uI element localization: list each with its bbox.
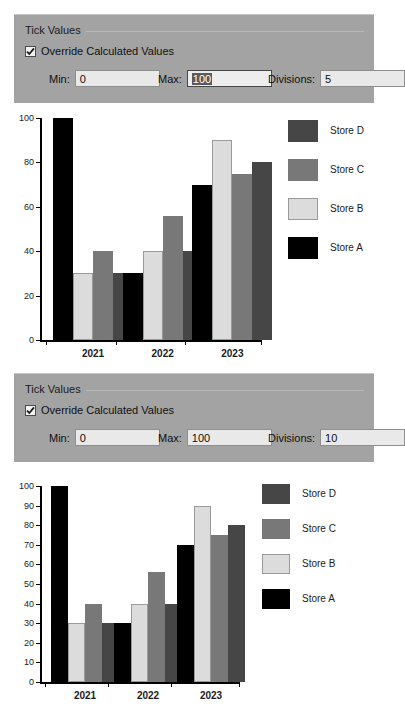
bar: [212, 140, 232, 340]
min-field-row: Min: 0: [49, 69, 160, 88]
y-tick-label: 50: [2, 580, 34, 589]
legend-label: Store D: [302, 489, 336, 499]
max-input[interactable]: 100: [187, 429, 272, 446]
max-field-label: Max:: [158, 73, 182, 85]
legend-swatch: [262, 589, 290, 609]
bar: [177, 545, 194, 682]
max-field-row: Max: 100: [158, 69, 272, 88]
y-tick-mark: [36, 662, 40, 663]
bar: [73, 273, 93, 340]
legend-label: Store B: [302, 559, 335, 569]
x-tick-mark: [45, 682, 46, 687]
override-calculated-values-row[interactable]: Override Calculated Values: [25, 45, 174, 57]
x-tick-mark: [116, 340, 117, 345]
y-tick-mark: [36, 545, 40, 546]
x-axis: [40, 682, 240, 684]
bar: [51, 486, 68, 682]
max-field-label: Max:: [158, 432, 182, 444]
y-tick-label: 80: [2, 158, 34, 167]
legend-swatch: [262, 484, 290, 504]
bar: [123, 273, 143, 340]
override-calculated-values-label: Override Calculated Values: [41, 45, 174, 57]
bar: [192, 185, 212, 340]
x-tick-label: 2022: [133, 349, 193, 359]
legend-label: Store A: [330, 243, 363, 253]
override-calculated-values-row[interactable]: Override Calculated Values: [25, 404, 174, 416]
y-tick-mark: [36, 584, 40, 585]
min-input-value: 0: [80, 73, 86, 85]
divisions-input-value: 5: [325, 73, 331, 85]
y-tick-mark: [36, 207, 40, 208]
divisions-input[interactable]: 5: [320, 70, 405, 87]
legend-label: Store C: [302, 524, 336, 534]
y-tick-mark: [36, 564, 40, 565]
x-tick-mark: [108, 682, 109, 687]
y-tick-label: 80: [2, 521, 34, 530]
y-tick-label: 20: [2, 639, 34, 648]
x-tick-mark: [239, 682, 240, 687]
legend-label: Store C: [330, 165, 364, 175]
divisions-input-value: 10: [325, 432, 337, 444]
bar-chart-1: 020406080100202120222023Store DStore CSt…: [0, 110, 388, 360]
bar: [163, 216, 183, 340]
y-tick-label: 20: [2, 292, 34, 301]
y-tick-label: 30: [2, 619, 34, 628]
x-tick-label: 2021: [55, 691, 115, 701]
y-tick-mark: [36, 296, 40, 297]
bar: [232, 174, 252, 341]
y-tick-mark: [36, 340, 40, 341]
y-tick-label: 60: [2, 203, 34, 212]
bar: [211, 535, 228, 682]
divisions-field-label: Divisions:: [268, 73, 315, 85]
y-axis: [40, 486, 42, 682]
y-tick-mark: [36, 118, 40, 119]
legend-swatch: [262, 519, 290, 539]
y-tick-label: 40: [2, 247, 34, 256]
y-tick-label: 100: [2, 114, 34, 123]
min-input[interactable]: 0: [75, 70, 160, 87]
panel-title: Tick Values: [25, 383, 81, 395]
bar-chart-2: 0102030405060708090100202120222023Store …: [0, 478, 388, 703]
bar: [68, 623, 85, 682]
min-field-label: Min:: [49, 432, 70, 444]
override-calculated-values-checkbox[interactable]: [25, 405, 36, 416]
bar: [143, 251, 163, 340]
y-tick-label: 70: [2, 541, 34, 550]
x-tick-mark: [185, 340, 186, 345]
x-tick-mark: [261, 340, 262, 345]
y-tick-label: 10: [2, 658, 34, 667]
legend-swatch: [288, 198, 318, 220]
x-tick-label: 2022: [118, 691, 178, 701]
y-tick-label: 90: [2, 502, 34, 511]
y-tick-label: 100: [2, 482, 34, 491]
min-field-label: Min:: [49, 73, 70, 85]
override-calculated-values-checkbox[interactable]: [25, 46, 36, 57]
bar: [148, 572, 165, 682]
legend-swatch: [288, 159, 318, 181]
x-tick-mark: [46, 340, 47, 345]
y-tick-label: 0: [2, 336, 34, 345]
y-tick-mark: [36, 251, 40, 252]
divisions-input[interactable]: 10: [320, 429, 405, 446]
min-input[interactable]: 0: [75, 429, 160, 446]
legend-label: Store B: [330, 204, 363, 214]
y-tick-mark: [36, 643, 40, 644]
bar: [53, 118, 73, 340]
bar: [131, 604, 148, 682]
max-field-row: Max: 100: [158, 428, 272, 447]
y-tick-label: 0: [2, 678, 34, 687]
legend-swatch: [288, 237, 318, 259]
bar: [93, 251, 113, 340]
bar: [194, 506, 211, 682]
y-tick-mark: [36, 486, 40, 487]
min-field-row: Min: 0: [49, 428, 160, 447]
divisions-field-row: Divisions: 5: [268, 69, 405, 88]
max-input[interactable]: 100: [187, 70, 272, 87]
y-tick-mark: [36, 623, 40, 624]
x-tick-label: 2023: [202, 349, 262, 359]
y-tick-mark: [36, 506, 40, 507]
y-tick-mark: [36, 682, 40, 683]
max-input-value: 100: [192, 432, 210, 444]
min-input-value: 0: [80, 432, 86, 444]
legend-label: Store A: [302, 594, 335, 604]
